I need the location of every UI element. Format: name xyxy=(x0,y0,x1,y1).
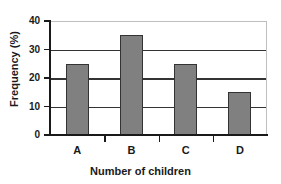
x-tick-label-C: C xyxy=(166,144,206,156)
bar-C xyxy=(174,64,197,135)
x-axis-title: Number of children xyxy=(0,165,281,177)
x-tick-label-A: A xyxy=(57,144,97,156)
x-tick-mark-1 xyxy=(104,136,106,142)
bar-D xyxy=(228,92,251,135)
y-tick-mark-10 xyxy=(44,106,50,108)
y-tick-mark-0 xyxy=(44,134,50,136)
gridline-30 xyxy=(50,50,266,52)
bar-chart-figure: Frequency (%) 010203040 ABCD Number of c… xyxy=(0,0,281,184)
y-tick-mark-20 xyxy=(44,77,50,79)
y-tick-label-30: 30 xyxy=(0,45,40,55)
y-tick-label-40: 40 xyxy=(0,16,40,26)
x-tick-mark-2 xyxy=(159,136,161,142)
y-tick-label-10: 10 xyxy=(0,102,40,112)
y-tick-label-20: 20 xyxy=(0,73,40,83)
bar-B xyxy=(120,35,143,135)
y-tick-mark-30 xyxy=(44,49,50,51)
x-tick-label-D: D xyxy=(220,144,260,156)
bar-A xyxy=(66,64,89,135)
y-tick-mark-40 xyxy=(44,20,50,22)
x-tick-label-B: B xyxy=(111,144,151,156)
y-tick-label-0: 0 xyxy=(0,130,40,140)
plot-area xyxy=(50,21,267,135)
x-tick-mark-3 xyxy=(213,136,215,142)
